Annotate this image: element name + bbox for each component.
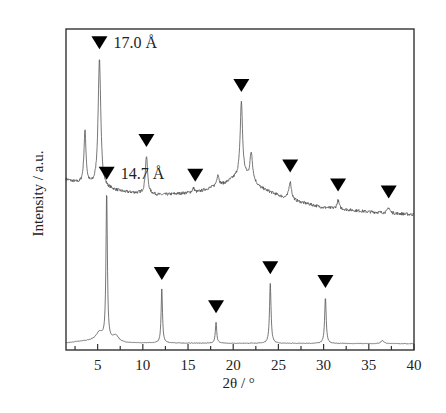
peak-marker [262,261,278,274]
x-tick-label: 15 [181,357,196,373]
annotation-17-0: 17.0 Å [113,34,157,51]
peak-marker [99,167,115,180]
x-tick-label: 25 [271,357,286,373]
peak-marker [154,267,170,280]
x-tick-label: 10 [135,357,150,373]
annotations: 17.0 Å14.7 Å [113,34,164,181]
peak-marker [330,178,346,191]
x-tick-label: 5 [94,357,102,373]
x-tick-labels: 510152025303540 [94,357,422,373]
annotation-14-7: 14.7 Å [121,165,165,182]
x-tick-label: 20 [226,357,241,373]
y-axis-title: Intensity / a.u. [30,151,46,237]
x-tick-label: 40 [407,357,422,373]
xrd-chart: 510152025303540 2θ / ° Intensity / a.u. … [0,0,446,413]
peak-marker [282,160,298,173]
peak-marker [138,134,154,147]
peak-marker [187,169,203,182]
curves-layer [66,60,414,344]
x-axis-title: 2θ / ° [222,375,254,391]
x-tick-label: 30 [316,357,331,373]
peak-marker [317,275,333,288]
lower-pattern-line [66,195,414,344]
peak-marker [381,185,397,198]
peak-marker [208,300,224,313]
peak-marker [91,36,107,49]
x-tick-label: 35 [361,357,376,373]
peak-marker [233,79,249,92]
x-ticks [75,344,414,350]
